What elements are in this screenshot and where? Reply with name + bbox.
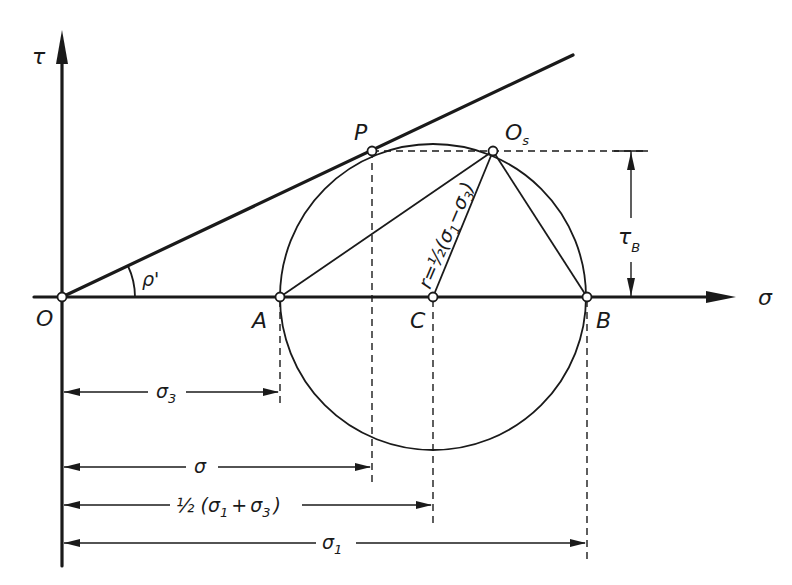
dimension-half-sum <box>64 501 432 509</box>
tau-b-label: τB <box>618 224 640 255</box>
label-O: O <box>36 306 53 331</box>
point-C <box>429 293 438 302</box>
tau-axis-label: τ <box>32 44 46 69</box>
label-P: P <box>354 120 368 145</box>
radius-label: r=½(σ1−σ3) <box>413 178 480 292</box>
dimension-sigma-label: σ <box>194 455 207 477</box>
svg-text:r=½(σ1−σ3): r=½(σ1−σ3) <box>413 178 480 292</box>
point-B <box>583 293 592 302</box>
radius-C-Os <box>433 151 493 297</box>
angle-label: ρ' <box>142 268 159 290</box>
point-Os <box>489 147 498 156</box>
point-O <box>58 293 67 302</box>
dimension-sigma3-label: σ3 <box>156 380 176 406</box>
label-A: A <box>250 308 267 333</box>
sigma-axis-label: σ <box>758 285 773 310</box>
label-Os: Os <box>505 120 529 148</box>
label-C: C <box>410 308 426 333</box>
dimension-sigma <box>64 463 371 471</box>
point-P <box>368 147 377 156</box>
mohr-circle-diagram: σ τ ρ' τB r=½(σ1−σ3) O A C B P Os <box>0 0 792 585</box>
dimension-half-sum-label: ½ (σ1+σ3) <box>176 494 281 520</box>
sigma-axis-arrowhead <box>706 291 736 303</box>
chord-Os-B <box>493 151 587 297</box>
point-A <box>276 293 285 302</box>
label-B: B <box>596 308 611 333</box>
tau-axis-arrowhead <box>56 30 68 64</box>
dimension-sigma1-label: σ1 <box>322 531 342 557</box>
failure-envelope-line <box>62 55 573 297</box>
angle-arc <box>128 266 135 297</box>
